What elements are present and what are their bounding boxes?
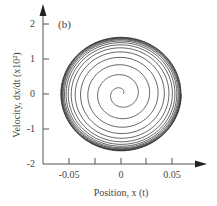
svg-text:2: 2 — [30, 18, 35, 29]
svg-text:0: 0 — [30, 88, 35, 99]
panel-label: (b) — [58, 18, 71, 31]
phase-portrait-chart: 2 1 0 -1 -2 -0.05 0 0.05 Position, x (t)… — [0, 0, 217, 206]
svg-text:1: 1 — [30, 53, 35, 64]
x-tick-labels: -0.05 0 0.05 — [59, 169, 181, 180]
svg-text:-2: -2 — [27, 158, 35, 169]
svg-text:-0.05: -0.05 — [59, 169, 80, 180]
trajectory-spiral — [61, 37, 181, 151]
y-axis-arrow-icon — [40, 4, 47, 16]
x-axis-arrow-icon — [195, 161, 207, 168]
y-ticks — [43, 24, 49, 129]
y-tick-labels: 2 1 0 -1 -2 — [27, 18, 35, 169]
x-ticks — [69, 158, 172, 164]
y-axis-label: Velocity, dx/dt (x10²) — [11, 52, 23, 137]
svg-text:-1: -1 — [27, 123, 35, 134]
x-axis-label: Position, x (t) — [94, 187, 149, 199]
svg-text:0.05: 0.05 — [163, 169, 181, 180]
svg-text:0: 0 — [119, 169, 124, 180]
